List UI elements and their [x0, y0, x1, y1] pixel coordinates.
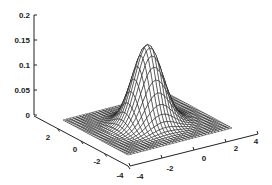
- x-tick-label: -4: [136, 172, 144, 181]
- x-tick-label: 0: [202, 154, 207, 163]
- z-tick-label: 0: [26, 111, 31, 120]
- gaussian-mesh-surface: [63, 44, 232, 155]
- x-tick-label: 4: [254, 137, 259, 146]
- surface-plot: 00.050.10.150.2 -4-2024 -4-202: [0, 0, 272, 185]
- y-tick-label: -4: [116, 171, 124, 180]
- x-tick-label: -2: [166, 164, 174, 173]
- y-tick-label: -2: [93, 157, 101, 166]
- z-axis: 00.050.10.150.2: [14, 11, 37, 120]
- y-tick-label: 2: [46, 133, 51, 142]
- x-tick-label: 2: [234, 144, 239, 153]
- z-tick-label: 0.15: [14, 36, 30, 45]
- z-tick-label: 0.1: [19, 61, 31, 70]
- y-tick-label: 0: [73, 145, 78, 154]
- z-tick-label: 0.2: [19, 11, 31, 20]
- z-tick-label: 0.05: [14, 86, 30, 95]
